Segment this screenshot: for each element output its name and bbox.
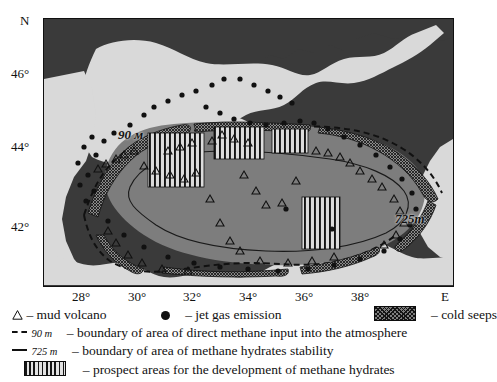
solid-line-icon xyxy=(12,349,27,351)
jet-gas-emission-icon xyxy=(161,311,170,320)
black-sea-map xyxy=(44,19,453,286)
legend-row-point-symbols: – mud volcano – jet gas emission – cold … xyxy=(12,306,497,323)
mud-volcano-icon xyxy=(12,310,23,320)
axis-label-east: E xyxy=(441,289,449,305)
legend-row-725m: 725 m – boundary of area of methane hydr… xyxy=(12,343,333,359)
dashed-line-icon xyxy=(12,331,27,333)
legend-90m-depth: 90 m xyxy=(31,328,52,339)
lat-tick-44: 44° xyxy=(11,139,29,155)
contour-725m-label: 725m xyxy=(395,211,425,227)
legend-725m-depth: 725 m xyxy=(31,346,57,357)
legend-prospect-label: – prospect areas for the development of … xyxy=(83,362,395,377)
lon-tick-36: 36° xyxy=(295,289,313,305)
lon-tick-32: 32° xyxy=(183,289,201,305)
legend-row-prospect: – prospect areas for the development of … xyxy=(24,361,395,378)
lon-tick-30: 30° xyxy=(128,289,146,305)
axis-label-north: N xyxy=(20,13,29,29)
legend-jet-gas-label: – jet gas emission xyxy=(185,307,281,322)
lon-tick-28: 28° xyxy=(72,289,90,305)
lon-tick-38: 38° xyxy=(351,289,369,305)
map-canvas: 90 м 725m xyxy=(43,18,454,287)
legend-mud-volcano-label: – mud volcano xyxy=(26,307,106,322)
legend-cold-seeps-label: – cold seeps xyxy=(431,307,497,322)
lat-tick-42: 42° xyxy=(11,219,29,235)
lat-tick-46: 46° xyxy=(11,66,29,82)
prospect-areas-swatch-icon xyxy=(24,361,66,376)
legend-row-90m: 90 m – boundary of area of direct methan… xyxy=(12,325,407,341)
legend: – mud volcano – jet gas emission – cold … xyxy=(0,306,467,382)
legend-725m-label: – boundary of area of methane hydrates s… xyxy=(72,343,333,358)
cold-seeps-swatch-icon xyxy=(374,306,416,321)
lon-tick-34: 34° xyxy=(239,289,257,305)
contour-90m-label: 90 м xyxy=(118,127,143,143)
legend-90m-label: – boundary of area of direct methane inp… xyxy=(67,325,407,340)
